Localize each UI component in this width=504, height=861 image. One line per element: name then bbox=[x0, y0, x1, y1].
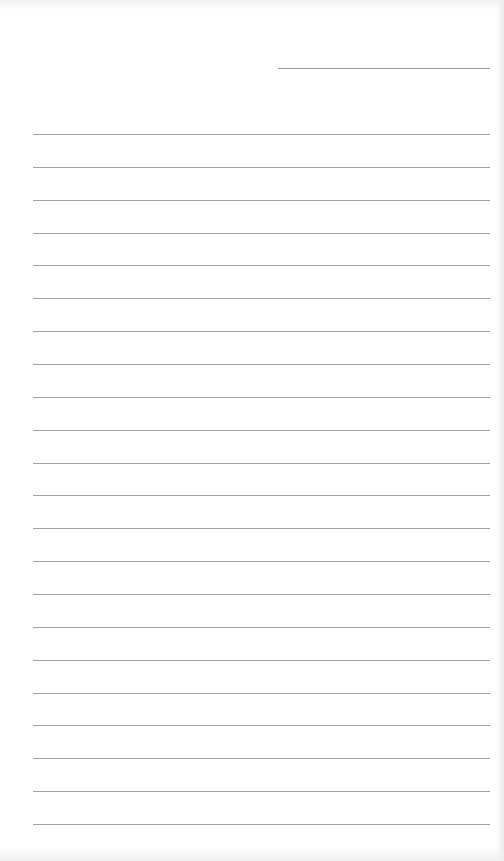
ruled-line bbox=[33, 331, 490, 332]
ruled-line bbox=[33, 791, 490, 792]
ruled-line bbox=[33, 495, 490, 496]
ruled-line bbox=[33, 693, 490, 694]
ruled-line bbox=[33, 627, 490, 628]
ruled-line bbox=[33, 528, 490, 529]
ruled-line bbox=[33, 463, 490, 464]
ruled-line bbox=[33, 725, 490, 726]
date-line bbox=[278, 68, 490, 69]
ruled-line bbox=[33, 397, 490, 398]
ruled-line bbox=[33, 167, 490, 168]
ruled-line bbox=[33, 200, 490, 201]
ruled-line bbox=[33, 134, 490, 135]
right-edge-shadow bbox=[496, 0, 504, 861]
lined-paper bbox=[0, 0, 504, 861]
bottom-edge-shadow bbox=[0, 847, 504, 861]
ruled-line bbox=[33, 265, 490, 266]
ruled-line bbox=[33, 594, 490, 595]
ruled-line bbox=[33, 430, 490, 431]
ruled-line bbox=[33, 824, 490, 825]
ruled-line bbox=[33, 561, 490, 562]
ruled-line bbox=[33, 364, 490, 365]
ruled-line bbox=[33, 758, 490, 759]
ruled-line bbox=[33, 660, 490, 661]
top-edge-shadow bbox=[0, 0, 504, 10]
ruled-line bbox=[33, 233, 490, 234]
ruled-line bbox=[33, 298, 490, 299]
